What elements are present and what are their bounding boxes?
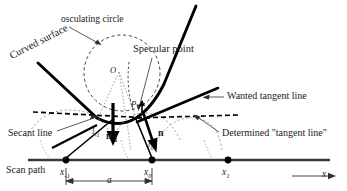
label-x-zero: x0 bbox=[144, 168, 152, 180]
secant-chord-left bbox=[52, 125, 97, 148]
base-arc-markers bbox=[40, 140, 212, 158]
label-normal-minus-1: n-1 bbox=[106, 131, 118, 144]
label-circle-center-o: O bbox=[110, 66, 116, 75]
label-wanted-tangent-line: Wanted tangent line bbox=[227, 91, 307, 101]
label-specular-point: Specular point bbox=[133, 44, 194, 55]
label-x-minus-1-sub: -1 bbox=[64, 172, 70, 179]
label-spacing-a: a bbox=[107, 176, 112, 186]
label-x-zero-sub: 0 bbox=[148, 172, 151, 179]
scan-point-x-zero bbox=[149, 157, 156, 164]
label-length-l-minus-1: l-1 bbox=[92, 127, 99, 138]
label-scan-path: Scan path bbox=[6, 165, 45, 175]
label-n-minus-1-sub: -1 bbox=[112, 136, 118, 144]
label-l-zero-sub: 0 bbox=[150, 145, 153, 151]
label-secant-line: Secant line bbox=[8, 128, 52, 138]
label-length-l-zero: l0 bbox=[148, 140, 153, 151]
label-l-minus-1-sub: -1 bbox=[94, 132, 99, 138]
label-normal-zero: n bbox=[158, 128, 164, 138]
scan-point-x-one bbox=[225, 157, 232, 164]
wanted-tangent-leader bbox=[203, 95, 225, 100]
determined-tangent-leader bbox=[194, 115, 220, 133]
osculating-circle-leader bbox=[69, 27, 102, 45]
label-x-minus-1: x-1 bbox=[60, 168, 70, 180]
label-osculating-circle: osculating circle bbox=[61, 15, 124, 25]
x-axis-arrow bbox=[292, 173, 336, 179]
label-axis-x: x bbox=[322, 170, 326, 180]
specular-point-leader bbox=[137, 58, 153, 111]
label-determined-tangent-line: Determined "tangent line" bbox=[222, 128, 327, 138]
label-x-one: x1 bbox=[222, 168, 230, 180]
label-x-one-sub: 1 bbox=[226, 172, 229, 179]
figure-osculating-circle-diagram: osculating circle Specular point Curved … bbox=[0, 0, 347, 191]
label-point-p: P bbox=[131, 100, 136, 109]
scan-point-x-minus-1 bbox=[63, 157, 70, 164]
